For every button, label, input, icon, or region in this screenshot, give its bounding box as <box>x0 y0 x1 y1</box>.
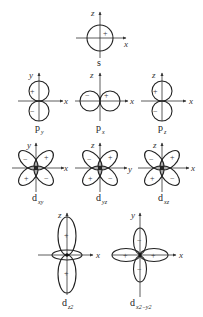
sign-minus: − <box>149 155 154 164</box>
orbital-pz: + − x z p z <box>141 70 193 135</box>
sign-plus: + <box>44 153 49 162</box>
orbital-diagram: + x z s + − x y p y − + x z p x + − x <box>0 0 203 317</box>
orbital-label-sub: z2 <box>67 304 73 310</box>
y-axis-label: y <box>130 210 135 220</box>
sign-plus: + <box>123 251 128 260</box>
sign-plus: + <box>30 87 35 96</box>
x-axis-label: x <box>123 39 128 49</box>
sign-plus: + <box>24 174 29 183</box>
orbital-label-sub: yz <box>101 199 108 205</box>
orbital-label-sub: xz <box>163 199 170 205</box>
x-axis-label: x <box>190 163 195 173</box>
sign-plus: + <box>64 269 69 278</box>
orbital-label-sub: x2−y2 <box>135 304 151 310</box>
orbital-label: p <box>158 122 163 133</box>
y-axis-label: y <box>26 140 31 150</box>
y-axis-label: y <box>127 164 132 174</box>
sign-minus: − <box>137 236 142 245</box>
orbital-label: d <box>96 192 101 203</box>
sign-plus: + <box>153 87 158 96</box>
sign-minus: − <box>137 265 142 274</box>
orbital-label-sub: xy <box>37 199 44 205</box>
orbital-label: p <box>96 122 101 133</box>
sign-minus: − <box>153 107 158 116</box>
sign-plus: + <box>170 153 175 162</box>
z-axis-label: z <box>89 70 94 80</box>
y-axis-label: y <box>28 70 33 80</box>
z-axis-label: z <box>152 140 157 150</box>
orbital-label-sub: x <box>101 129 105 135</box>
sign-plus: + <box>103 29 108 38</box>
orbital-dx2y2: − + + − x y d x2−y2 <box>112 210 183 310</box>
orbital-py: + − x y p y <box>18 70 68 135</box>
sign-minus: − <box>30 107 35 116</box>
orbital-dxy: − + + − x y d xy <box>12 140 68 205</box>
orbital-px: − + x z p x <box>75 70 134 135</box>
sign-plus: + <box>104 91 109 100</box>
orbital-label: p <box>35 122 40 133</box>
orbital-label: d <box>32 192 37 203</box>
orbital-label: d <box>62 297 67 308</box>
z-axis-label: z <box>57 210 62 220</box>
z-axis-label: z <box>90 140 95 150</box>
sign-minus: − <box>87 155 92 164</box>
x-axis-label: x <box>129 96 134 106</box>
orbital-label-sub: y <box>40 129 44 135</box>
orbital-dyz: − + + − y z d yz <box>75 140 132 205</box>
sign-minus: − <box>170 174 175 183</box>
x-axis-label: x <box>95 250 100 260</box>
sign-plus: + <box>88 174 93 183</box>
x-axis-label: x <box>63 96 68 106</box>
sign-plus: + <box>64 231 69 240</box>
orbital-dz2: + + x z d z2 <box>38 210 100 310</box>
x-axis-label: x <box>63 163 68 173</box>
sign-plus: + <box>151 251 156 260</box>
z-axis-label: z <box>151 70 156 80</box>
orbital-dxz: − + + − x z d xz <box>138 140 195 205</box>
orbital-s: + x z s <box>76 8 128 68</box>
x-axis-label: x <box>178 250 183 260</box>
orbital-label: d <box>130 297 135 308</box>
sign-minus: − <box>23 155 28 164</box>
orbital-label: d <box>158 192 163 203</box>
sign-plus: + <box>150 174 155 183</box>
z-axis-label: z <box>90 8 95 18</box>
sign-plus: + <box>108 153 113 162</box>
x-axis-label: x <box>188 96 193 106</box>
sign-minus: − <box>108 174 113 183</box>
orbital-label: s <box>97 57 101 68</box>
orbital-label-sub: z <box>163 129 167 135</box>
sign-minus: − <box>85 91 90 100</box>
sign-minus: − <box>44 174 49 183</box>
